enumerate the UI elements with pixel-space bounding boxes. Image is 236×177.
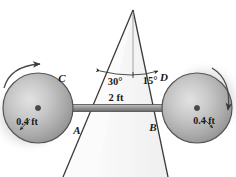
label-radius-right: 0.4 ft — [193, 115, 215, 126]
label-point-b: B — [148, 121, 156, 133]
label-angle-right: 15° — [143, 75, 158, 86]
right-wheel-hub — [194, 105, 199, 110]
label-point-a: A — [72, 124, 80, 136]
label-bar-length: 2 ft — [109, 92, 124, 103]
mechanics-figure: C A D B 30° 15° 2 ft 0.4 ft 0.4 ft — [0, 0, 236, 177]
label-radius-left: 0.4 ft — [16, 116, 38, 127]
label-angle-left: 30° — [108, 76, 123, 87]
label-point-d: D — [159, 71, 168, 83]
left-wheel-hub — [35, 105, 40, 110]
label-point-c: C — [58, 72, 66, 84]
